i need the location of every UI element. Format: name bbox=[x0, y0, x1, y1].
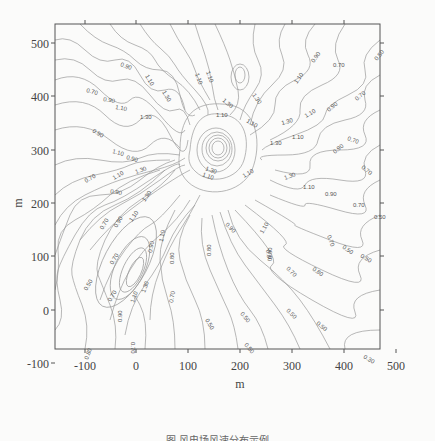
svg-text:0.80: 0.80 bbox=[169, 252, 175, 264]
x-tick-label: 200 bbox=[231, 359, 249, 373]
svg-text:1.10: 1.10 bbox=[194, 72, 204, 86]
svg-text:0.70: 0.70 bbox=[353, 202, 365, 208]
svg-text:0.70: 0.70 bbox=[347, 135, 361, 145]
y-tick-label: 300 bbox=[31, 144, 49, 158]
svg-text:0.50: 0.50 bbox=[204, 318, 215, 332]
svg-text:1.10: 1.10 bbox=[303, 184, 315, 190]
y-tick-label: 400 bbox=[31, 90, 49, 104]
svg-text:1.10: 1.10 bbox=[292, 134, 304, 140]
svg-text:1.10: 1.10 bbox=[293, 71, 305, 85]
svg-text:1.30: 1.30 bbox=[140, 280, 150, 294]
svg-text:1.10: 1.10 bbox=[246, 118, 260, 129]
svg-text:0.70: 0.70 bbox=[86, 87, 99, 96]
svg-text:0.90: 0.90 bbox=[224, 221, 237, 234]
svg-text:0.70: 0.70 bbox=[168, 290, 176, 303]
contour-labels: 0.90 1.10 1.10 1.10 0.70 0.90 1.10 1.30 … bbox=[83, 48, 387, 365]
y-tick-label: 100 bbox=[31, 250, 49, 264]
svg-text:1.30: 1.30 bbox=[281, 117, 294, 126]
svg-text:1.10: 1.10 bbox=[242, 167, 256, 178]
svg-text:1.10: 1.10 bbox=[115, 104, 128, 112]
y-tick-label: -100 bbox=[27, 357, 49, 371]
svg-text:0.80: 0.80 bbox=[206, 244, 212, 256]
svg-text:0.30: 0.30 bbox=[363, 354, 377, 365]
svg-text:0.50: 0.50 bbox=[239, 311, 252, 324]
svg-text:1.10: 1.10 bbox=[259, 221, 270, 235]
svg-text:0.70: 0.70 bbox=[326, 234, 336, 248]
svg-text:1.10: 1.10 bbox=[205, 70, 215, 84]
svg-text:0.90: 0.90 bbox=[113, 215, 124, 229]
svg-text:1.30: 1.30 bbox=[270, 140, 282, 146]
svg-text:0.90: 0.90 bbox=[110, 188, 123, 196]
x-axis-title: m bbox=[235, 377, 245, 391]
svg-text:0.50: 0.50 bbox=[341, 244, 355, 256]
contour-figure: 0.90 1.10 1.10 1.10 0.70 0.90 1.10 1.30 … bbox=[0, 0, 435, 441]
svg-text:0.80: 0.80 bbox=[311, 266, 325, 278]
y-tick-label: 200 bbox=[31, 197, 49, 211]
svg-text:1.10: 1.10 bbox=[158, 229, 166, 242]
svg-text:0.90: 0.90 bbox=[332, 142, 345, 155]
svg-text:0.50: 0.50 bbox=[373, 48, 386, 61]
x-tick-label: 0 bbox=[133, 359, 139, 373]
svg-text:0.90: 0.90 bbox=[117, 310, 123, 322]
svg-text:1.30: 1.30 bbox=[161, 90, 172, 104]
svg-text:0.90: 0.90 bbox=[310, 50, 322, 64]
svg-text:0.90: 0.90 bbox=[326, 100, 339, 113]
svg-text:0.70: 0.70 bbox=[84, 172, 98, 183]
svg-text:0.70: 0.70 bbox=[285, 265, 298, 278]
x-tick-label: 100 bbox=[179, 359, 197, 373]
svg-text:0.90: 0.90 bbox=[325, 191, 337, 197]
svg-text:1.10: 1.10 bbox=[112, 148, 125, 157]
svg-text:1.30: 1.30 bbox=[141, 189, 153, 203]
svg-text:0.50: 0.50 bbox=[360, 253, 374, 264]
svg-text:1.10: 1.10 bbox=[144, 74, 155, 88]
svg-text:1.10: 1.10 bbox=[128, 209, 140, 223]
svg-text:0.70: 0.70 bbox=[333, 62, 345, 68]
svg-text:1.10: 1.10 bbox=[304, 107, 318, 118]
y-tick-label: 0 bbox=[43, 304, 49, 318]
svg-text:1.10: 1.10 bbox=[216, 112, 228, 118]
svg-text:1.30: 1.30 bbox=[251, 92, 263, 106]
svg-text:0.70: 0.70 bbox=[130, 342, 136, 354]
svg-text:0.80: 0.80 bbox=[267, 247, 273, 259]
svg-text:0.70: 0.70 bbox=[360, 164, 373, 177]
y-tick-label: 500 bbox=[31, 37, 49, 51]
y-axis-title: m bbox=[11, 198, 25, 208]
svg-text:0.50: 0.50 bbox=[83, 278, 94, 292]
x-tick-label: -100 bbox=[74, 359, 96, 373]
x-tick-label: 300 bbox=[283, 359, 301, 373]
x-tick-label: 400 bbox=[335, 359, 353, 373]
contour-lines bbox=[55, 24, 380, 349]
figure-caption: 图 风电场风速分布示例 bbox=[0, 433, 435, 441]
svg-text:0.70: 0.70 bbox=[109, 252, 120, 266]
svg-text:1.30: 1.30 bbox=[140, 114, 152, 120]
svg-text:0.90: 0.90 bbox=[92, 128, 106, 139]
svg-text:1.30: 1.30 bbox=[221, 97, 234, 110]
svg-text:0.50: 0.50 bbox=[243, 342, 256, 355]
svg-text:0.50: 0.50 bbox=[315, 320, 328, 333]
svg-text:0.50: 0.50 bbox=[285, 307, 298, 320]
x-tick-label: 500 bbox=[387, 359, 405, 373]
svg-text:0.90: 0.90 bbox=[103, 96, 116, 104]
